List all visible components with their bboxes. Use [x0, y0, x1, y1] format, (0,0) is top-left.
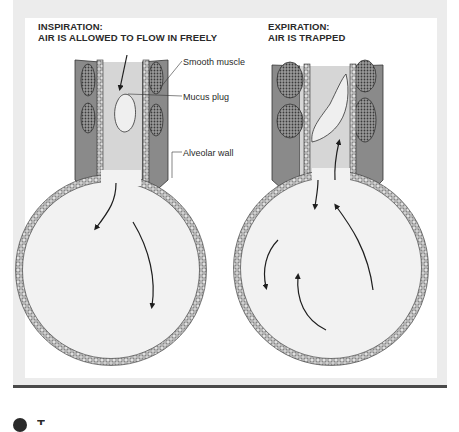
expiration-subtitle: AIR IS TRAPPED [268, 32, 345, 43]
label-alveolar-wall: Alveolar wall [183, 148, 234, 158]
label-mucus-plug: Mucus plug [183, 92, 229, 102]
inspiration-heading: INSPIRATION: AIR IS ALLOWED TO FLOW IN F… [38, 21, 217, 43]
inspiration-diagram [16, 55, 207, 366]
inspiration-subtitle: AIR IS ALLOWED TO FLOW IN FREELY [38, 32, 217, 43]
section-divider [13, 385, 447, 388]
expiration-heading: EXPIRATION: AIR IS TRAPPED [268, 21, 345, 43]
bullet-icon [13, 418, 27, 432]
footer-text-partial: T [37, 417, 45, 425]
expiration-diagram [234, 60, 429, 366]
inspiration-title: INSPIRATION: [38, 21, 217, 32]
expiration-title: EXPIRATION: [268, 21, 345, 32]
label-smooth-muscle: Smooth muscle [183, 57, 245, 67]
